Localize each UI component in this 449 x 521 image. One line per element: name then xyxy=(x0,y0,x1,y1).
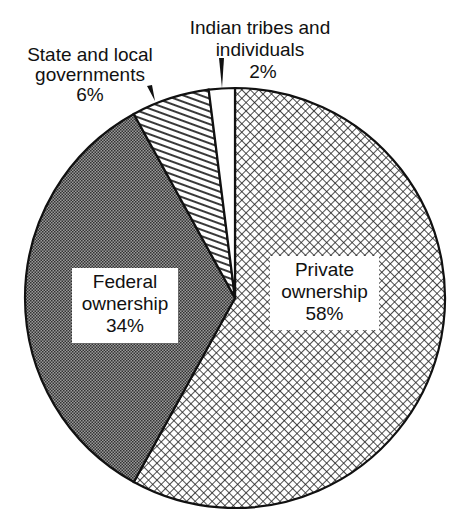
label-indian-line2: individuals xyxy=(176,39,344,61)
label-private-line1: Private xyxy=(270,259,379,281)
label-private-line2: ownership xyxy=(270,281,379,303)
label-indian-line1: Indian tribes and xyxy=(176,17,344,39)
label-state-line2: governments xyxy=(14,65,166,85)
label-private-pct: 58% xyxy=(270,303,379,325)
label-state: State and local governments 6% xyxy=(14,45,166,105)
label-state-pct: 6% xyxy=(14,85,166,105)
label-private: Private ownership 58% xyxy=(270,256,379,330)
label-state-line1: State and local xyxy=(14,45,166,65)
label-federal-line2: ownership xyxy=(72,293,178,315)
label-indian-pct: 2% xyxy=(176,61,344,83)
label-federal-pct: 34% xyxy=(72,315,178,337)
label-federal-line1: Federal xyxy=(72,271,178,293)
label-indian: Indian tribes and individuals 2% xyxy=(176,17,344,83)
label-federal: Federal ownership 34% xyxy=(72,268,178,343)
